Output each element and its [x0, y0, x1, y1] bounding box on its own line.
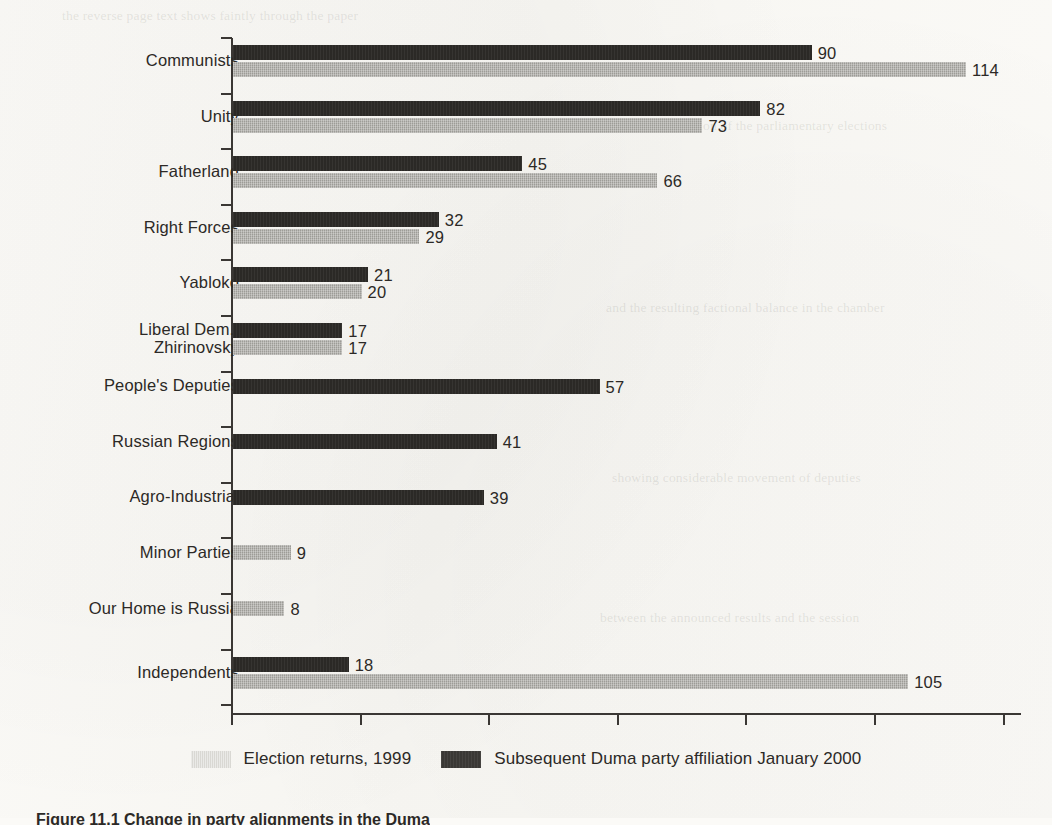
- category-label: People's Deputies: [104, 376, 239, 394]
- bar-duma-affiliation: [233, 323, 342, 338]
- y-axis-tick: [221, 649, 232, 651]
- category-label: Yabloko: [180, 273, 239, 291]
- x-axis-line: [231, 713, 1021, 715]
- category-label: Independents: [137, 663, 239, 681]
- bar-value-label: 57: [606, 380, 625, 395]
- x-axis-tick: [360, 715, 362, 725]
- bar-election-returns: [233, 674, 908, 689]
- bar-election-returns: [233, 340, 342, 355]
- y-axis-tick: [221, 426, 232, 428]
- y-axis-tick: [221, 204, 232, 206]
- x-axis-tick: [488, 715, 490, 725]
- legend-swatch-dark: [441, 751, 481, 768]
- category-label: Right Forces: [144, 218, 239, 236]
- legend-label-duma-affiliation: Subsequent Duma party affiliation Januar…: [494, 749, 861, 769]
- bar-value-label: 45: [528, 157, 547, 172]
- category-label: Communists: [146, 51, 239, 69]
- x-axis-tick: [617, 715, 619, 725]
- x-axis-tick: [1003, 715, 1005, 725]
- bar-value-label: 105: [914, 675, 942, 690]
- bar-value-label: 41: [503, 435, 522, 450]
- bar-duma-affiliation: [233, 156, 522, 171]
- bar-duma-affiliation: [233, 490, 484, 505]
- bar-duma-affiliation: [233, 379, 600, 394]
- bar-value-label: 9: [297, 546, 306, 561]
- y-axis-tick: [221, 593, 232, 595]
- bar-value-label: 29: [425, 230, 444, 245]
- y-axis-tick: [221, 93, 232, 95]
- y-axis-tick: [221, 259, 232, 261]
- bar-election-returns: [233, 229, 419, 244]
- bar-election-returns: [233, 62, 966, 77]
- bar-election-returns: [233, 173, 657, 188]
- bar-duma-affiliation: [233, 212, 439, 227]
- bar-value-label: 17: [348, 341, 367, 356]
- bar-value-label: 82: [766, 102, 785, 117]
- legend-item-duma-affiliation: Subsequent Duma party affiliation Januar…: [441, 749, 861, 769]
- bar-value-label: 73: [708, 119, 727, 134]
- legend-swatch-light: [191, 751, 231, 768]
- category-label: Agro-Industrial: [129, 487, 239, 505]
- x-axis-tick: [231, 715, 233, 725]
- bar-duma-affiliation: [233, 657, 349, 672]
- y-axis-tick: [221, 371, 232, 373]
- y-axis-tick: [221, 148, 232, 150]
- figure-caption: Figure 11.1 Change in party alignments i…: [36, 811, 430, 825]
- bar-election-returns: [233, 284, 362, 299]
- y-axis-tick: [221, 37, 232, 39]
- bar-value-label: 8: [290, 602, 299, 617]
- y-axis-tick: [221, 704, 232, 706]
- y-axis-tick: [221, 537, 232, 539]
- legend-item-election-returns: Election returns, 1999: [191, 749, 412, 769]
- bar-value-label: 18: [355, 658, 374, 673]
- bar-election-returns: [233, 118, 702, 133]
- bar-value-label: 32: [445, 213, 464, 228]
- category-label: Liberal Dem./ Zhirinovsky: [139, 320, 239, 356]
- x-axis-tick: [874, 715, 876, 725]
- legend-label-election-returns: Election returns, 1999: [244, 749, 412, 769]
- bar-duma-affiliation: [233, 267, 368, 282]
- bar-value-label: 39: [490, 491, 509, 506]
- bar-value-label: 17: [348, 324, 367, 339]
- bar-duma-affiliation: [233, 101, 760, 116]
- bar-duma-affiliation: [233, 434, 497, 449]
- y-axis-tick: [221, 315, 232, 317]
- bar-value-label: 66: [663, 174, 682, 189]
- x-axis-tick: [745, 715, 747, 725]
- bar-duma-affiliation: [233, 45, 812, 60]
- y-axis-tick: [221, 482, 232, 484]
- bar-election-returns: [233, 545, 291, 560]
- category-label: Our Home is Russia: [89, 599, 239, 617]
- category-label: Russian Regions: [112, 432, 239, 450]
- bar-election-returns: [233, 601, 284, 616]
- chart-legend: Election returns, 1999 Subsequent Duma p…: [0, 749, 1052, 769]
- category-label: Minor Parties: [140, 543, 239, 561]
- bar-value-label: 20: [368, 285, 387, 300]
- bar-value-label: 21: [374, 268, 393, 283]
- bar-value-label: 90: [818, 46, 837, 61]
- category-label: Fatherland: [159, 162, 239, 180]
- bar-value-label: 114: [972, 63, 999, 78]
